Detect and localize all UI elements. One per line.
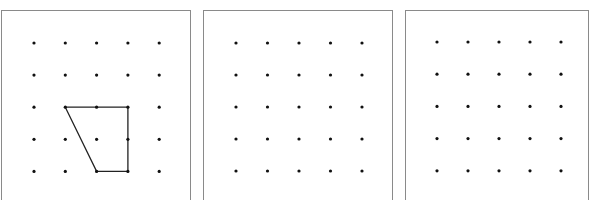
panel-3 (405, 10, 589, 200)
grid-dot (158, 170, 161, 173)
grid-dot (32, 74, 35, 77)
grid-dot (360, 169, 363, 172)
grid-dot (329, 137, 332, 140)
dot-grid (204, 11, 394, 200)
grid-dot (435, 169, 438, 172)
grid-dot (559, 137, 562, 140)
grid-dot (64, 41, 67, 44)
grid-dot (234, 105, 237, 108)
grid-dot (466, 105, 469, 108)
grid-dot (95, 170, 98, 173)
grid-dot (497, 105, 500, 108)
grid-dot (158, 41, 161, 44)
grid-dot (297, 105, 300, 108)
grid-dot (234, 73, 237, 76)
grid-dot (158, 138, 161, 141)
grid-dot (95, 138, 98, 141)
grid-dot (95, 106, 98, 109)
grid-dot (266, 73, 269, 76)
grid-dot (559, 40, 562, 43)
grid-dot (32, 138, 35, 141)
grid-dot (32, 170, 35, 173)
grid-dot (64, 138, 67, 141)
grid-dot (266, 41, 269, 44)
grid-dot (234, 41, 237, 44)
panel-1 (1, 10, 191, 200)
grid-dot (126, 41, 129, 44)
grid-dot (528, 73, 531, 76)
grid-dot (95, 41, 98, 44)
grid-dot (266, 105, 269, 108)
grid-dot (126, 170, 129, 173)
grid-dot (95, 74, 98, 77)
grid-dot (64, 74, 67, 77)
grid-dot (234, 137, 237, 140)
grid-dot (360, 105, 363, 108)
grid-dot (466, 73, 469, 76)
grid-dot (528, 40, 531, 43)
grid-dot (528, 105, 531, 108)
grid-dot (360, 41, 363, 44)
grid-dot (158, 106, 161, 109)
panel-2 (203, 10, 393, 200)
grid-dot (466, 137, 469, 140)
grid-dot (466, 40, 469, 43)
grid-dot (528, 169, 531, 172)
grid-dot (297, 137, 300, 140)
grid-dot (297, 41, 300, 44)
grid-dot (329, 169, 332, 172)
grid-dot (297, 169, 300, 172)
dot-grid (2, 11, 192, 200)
grid-dot (64, 170, 67, 173)
grid-dot (360, 137, 363, 140)
grid-dot (435, 73, 438, 76)
grid-dot (497, 169, 500, 172)
grid-dot (126, 106, 129, 109)
grid-dot (497, 137, 500, 140)
grid-dot (559, 73, 562, 76)
grid-dot (266, 169, 269, 172)
grid-dot (329, 41, 332, 44)
grid-dot (497, 73, 500, 76)
grid-dot (559, 169, 562, 172)
grid-dot (435, 40, 438, 43)
grid-dot (329, 105, 332, 108)
grid-dot (528, 137, 531, 140)
grid-dot (126, 74, 129, 77)
dot-grid (406, 11, 590, 200)
grid-dot (64, 106, 67, 109)
grid-dot (466, 169, 469, 172)
grid-dot (497, 40, 500, 43)
grid-dot (360, 73, 363, 76)
grid-dot (126, 138, 129, 141)
grid-dot (234, 169, 237, 172)
grid-dot (435, 105, 438, 108)
grid-dot (297, 73, 300, 76)
grid-dot (559, 105, 562, 108)
grid-dot (32, 41, 35, 44)
grid-dot (266, 137, 269, 140)
grid-dot (32, 106, 35, 109)
grid-dot (329, 73, 332, 76)
grid-dot (158, 74, 161, 77)
grid-dot (435, 137, 438, 140)
